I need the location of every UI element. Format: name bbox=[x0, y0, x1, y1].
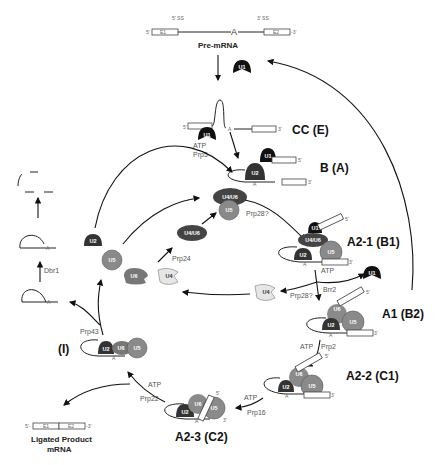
b-5-end: 5' bbox=[298, 157, 302, 163]
product-title-line2: mRNA bbox=[47, 445, 72, 454]
u1-label: U1 bbox=[238, 64, 245, 70]
a1-exon-2 bbox=[347, 330, 373, 336]
arrow-a21-to-a1 bbox=[315, 270, 319, 300]
b-intron-loop bbox=[228, 170, 245, 182]
free-u4-left: U4 bbox=[158, 268, 178, 284]
di-u4u6-label: U4/U6 bbox=[184, 230, 200, 236]
stage-i: (I) bbox=[58, 342, 69, 356]
free-u4-label: U4 bbox=[165, 273, 173, 279]
complex-a21: U2 U4/U6 U1 5' U5 3' A A2-1 (B1) bbox=[279, 214, 400, 267]
b-u2-label: U2 bbox=[251, 170, 258, 176]
complex-a22: U2 U6 U5 5' 3' A A2-2 (C1) bbox=[264, 353, 399, 399]
branch-point-label: A bbox=[231, 27, 237, 37]
arrow-u4-to-left bbox=[183, 292, 250, 295]
exon-2-label: E2 bbox=[273, 29, 279, 35]
a22-u2-label: U2 bbox=[282, 384, 289, 390]
a21-exon-2 bbox=[322, 259, 348, 265]
arrow-release-u1 bbox=[317, 274, 364, 283]
arrow-release-u4 bbox=[281, 282, 317, 291]
spliceosome-cycle-diagram: 5' SS 3' SS 5' E1 A E2 -3' Pre-mRNA U1 5… bbox=[0, 0, 436, 465]
free-u1-top: U1 bbox=[233, 60, 251, 73]
a21-3-end: 3' bbox=[349, 259, 353, 265]
a21-u1-label: U1 bbox=[311, 225, 318, 231]
a1-3-end: 3' bbox=[374, 330, 378, 336]
atp-label-1: ATP bbox=[193, 142, 206, 149]
i-u2-label: U2 bbox=[102, 346, 109, 352]
i-intron-loop bbox=[81, 340, 98, 356]
arrow-cc-to-b bbox=[230, 132, 238, 158]
a21-u5-label: U5 bbox=[327, 249, 334, 255]
ligated-product: 5'- E1 E2 -3' Ligated Product mRNA bbox=[25, 423, 92, 454]
stage-a21: A2-1 (B1) bbox=[347, 235, 400, 249]
arrow-u2-to-b bbox=[95, 146, 232, 228]
debranched-intron: A bbox=[20, 235, 56, 251]
prp24-label: Prp24 bbox=[172, 255, 191, 263]
lariat-loop bbox=[22, 290, 46, 302]
a22-exon-2 bbox=[304, 392, 330, 398]
pre-mrna: 5' SS 3' SS 5' E1 A E2 -3' Pre-mRNA bbox=[146, 15, 296, 50]
arrow-i-to-lariat bbox=[70, 302, 100, 325]
lariat-intron: A bbox=[22, 290, 58, 305]
free-u6: U6 bbox=[124, 268, 148, 285]
product-3-end: -3' bbox=[86, 423, 91, 429]
cc-3-end: 3' bbox=[278, 126, 282, 132]
a22-3-end: 3' bbox=[331, 392, 335, 398]
arrow-tri-to-a21 bbox=[245, 200, 305, 240]
a1-u6-label: U6 bbox=[333, 306, 340, 312]
ss3-label: 3' SS bbox=[257, 15, 269, 21]
complex-i: U2 U6 U5 A (I) bbox=[58, 338, 147, 361]
tri-u4u6-label: U4/U6 bbox=[222, 194, 238, 200]
prp16-label: Prp16 bbox=[247, 409, 266, 417]
a23-u6-label: U6 bbox=[194, 401, 201, 407]
product-5-end: 5'- bbox=[25, 423, 31, 429]
stage-a1: A1 (B2) bbox=[382, 307, 424, 321]
i-u6-label: U6 bbox=[117, 345, 124, 351]
atp-label-3: ATP bbox=[300, 343, 313, 350]
released-u1-label: U1 bbox=[368, 270, 375, 276]
complex-cc: 5' U1 A 3' CC (E) bbox=[183, 100, 329, 140]
a1-u2-label: U2 bbox=[327, 322, 334, 328]
a23-u2-label: U2 bbox=[181, 409, 188, 415]
tri-u5-label: U5 bbox=[225, 207, 232, 213]
complex-a23: U2 U6 U5 5' 3' A A2-3 (C2) bbox=[165, 390, 228, 444]
u4u6-disnrnp: U4/U6 bbox=[177, 225, 207, 241]
arrow-to-product bbox=[64, 384, 130, 405]
a22-u6-label: U6 bbox=[295, 371, 302, 377]
cc-5-end: 5' bbox=[183, 124, 187, 130]
b-exon-2 bbox=[282, 179, 306, 185]
free-u6-label: U6 bbox=[130, 273, 137, 279]
a22-u5-label: U5 bbox=[308, 383, 315, 389]
cc-intron-loop bbox=[212, 100, 226, 128]
prp22-label: Prp22 bbox=[140, 395, 159, 403]
degraded-intron bbox=[18, 172, 53, 192]
complex-b: U2 U1 5' A 3' B (A) bbox=[228, 148, 349, 187]
arrow-i-to-u5 bbox=[98, 280, 103, 335]
stage-a23: A2-3 (C2) bbox=[175, 430, 228, 444]
ss5-label: 5' SS bbox=[172, 15, 184, 21]
b-3-end: 3' bbox=[308, 179, 312, 185]
cc-branch: A bbox=[228, 126, 232, 132]
tri-snrnp: U4/U6 U5 Prp28? bbox=[213, 188, 269, 220]
stage-a22: A2-2 (C1) bbox=[346, 369, 399, 383]
exon-1-label: E1 bbox=[160, 29, 166, 35]
released-u4-label: U4 bbox=[262, 289, 270, 295]
pre-mrna-3-end: -3' bbox=[291, 29, 296, 35]
product-exon-2-label: E2 bbox=[68, 423, 74, 429]
i-u5-label: U5 bbox=[133, 345, 140, 351]
atp-label-5: ATP bbox=[148, 381, 161, 388]
a22-5-end: 5' bbox=[325, 353, 329, 359]
atp-label-2: ATP bbox=[321, 267, 334, 274]
a21-5-end: 5' bbox=[345, 216, 349, 222]
a23-u5-label: U5 bbox=[210, 405, 217, 411]
free-u2-label: U2 bbox=[89, 238, 96, 244]
cc-u1-label: U1 bbox=[203, 132, 210, 138]
cc-exon-2 bbox=[252, 126, 276, 132]
a23-3-end: 3' bbox=[223, 417, 227, 423]
pre-mrna-5-end: 5' bbox=[146, 29, 150, 35]
fragment-2 bbox=[18, 174, 22, 186]
b-u1-label: U1 bbox=[264, 153, 271, 159]
prp43-label: Prp43 bbox=[80, 328, 99, 336]
prp2-label: Prp2 bbox=[321, 343, 336, 351]
a21-u2-label: U2 bbox=[299, 252, 306, 258]
a21-u4u6-label: U4/U6 bbox=[305, 237, 321, 243]
